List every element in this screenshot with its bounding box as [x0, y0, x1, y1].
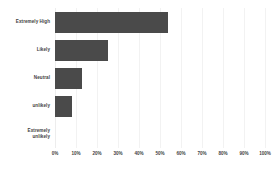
- y-axis-label-0: Extremely High: [0, 8, 50, 36]
- x-axis-tick-labels: 0%10%20%30%40%50%60%70%80%90%100%: [55, 150, 265, 164]
- y-axis-label-3: unlikely: [0, 92, 50, 120]
- y-axis-label-2: Neutral: [0, 64, 50, 92]
- bar-row: [55, 8, 265, 36]
- x-tick-label-100%: 100%: [259, 150, 271, 157]
- x-tick-label-60%: 60%: [176, 150, 185, 157]
- bar-3[interactable]: [55, 96, 72, 117]
- y-axis-label-1: Likely: [0, 36, 50, 64]
- x-tick-label-0%: 0%: [52, 150, 59, 157]
- gridline-100%: [265, 8, 266, 148]
- x-tick-label-50%: 50%: [155, 150, 164, 157]
- x-tick-label-40%: 40%: [134, 150, 143, 157]
- bar-row: [55, 36, 265, 64]
- bar-row: [55, 120, 265, 148]
- bar-row: [55, 64, 265, 92]
- x-tick-label-70%: 70%: [197, 150, 206, 157]
- bar-row: [55, 92, 265, 120]
- bar-chart: Extremely High Likely Neutral unlikely E…: [0, 0, 277, 178]
- bar-0[interactable]: [55, 12, 168, 33]
- y-axis-label-4: Extremely unlikely: [0, 120, 50, 148]
- bar-1[interactable]: [55, 40, 108, 61]
- y-axis-category-labels: Extremely High Likely Neutral unlikely E…: [0, 8, 50, 148]
- x-tick-label-90%: 90%: [239, 150, 248, 157]
- bar-2[interactable]: [55, 68, 82, 89]
- x-tick-label-20%: 20%: [92, 150, 101, 157]
- plot-area: [55, 8, 265, 148]
- x-tick-label-30%: 30%: [113, 150, 122, 157]
- x-tick-label-80%: 80%: [218, 150, 227, 157]
- bar-series: [55, 8, 265, 148]
- x-tick-label-10%: 10%: [71, 150, 80, 157]
